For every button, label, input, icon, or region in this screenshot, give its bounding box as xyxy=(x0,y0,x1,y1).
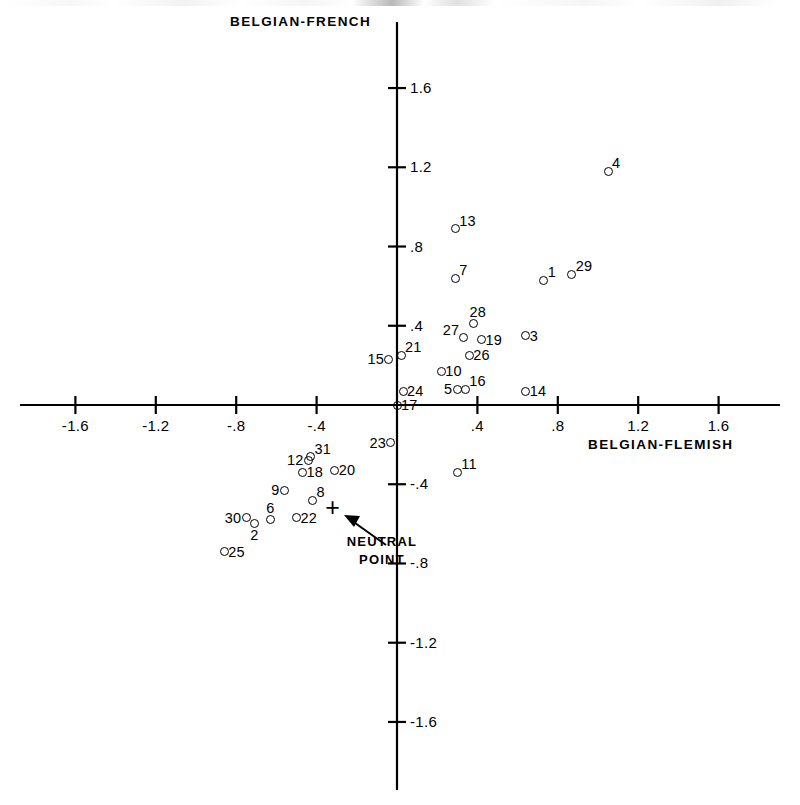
data-point-label: 30 xyxy=(225,511,242,526)
y-tick-label: -.4 xyxy=(410,475,428,492)
data-point-label: 15 xyxy=(367,352,384,367)
x-tick-label: 1.6 xyxy=(708,417,730,434)
neutral-point-label: NEUTRAL POINT xyxy=(347,533,418,568)
y-tick-label: 1.2 xyxy=(410,158,432,175)
data-point-label: 12 xyxy=(287,453,304,468)
x-tick-label: 1.2 xyxy=(627,417,649,434)
data-point-label: 5 xyxy=(444,382,452,397)
y-tick-label: .8 xyxy=(410,238,423,255)
x-tick-label: .8 xyxy=(551,417,564,434)
data-point-label: 6 xyxy=(266,501,274,516)
data-point-marker xyxy=(459,333,468,342)
data-point-label: 17 xyxy=(401,398,418,413)
data-point-label: 22 xyxy=(301,511,318,526)
x-tick-label: -1.6 xyxy=(62,417,89,434)
data-point-label: 7 xyxy=(459,263,467,278)
x-tick-label: .4 xyxy=(471,417,484,434)
data-point-label: 29 xyxy=(576,259,593,274)
data-point-label: 3 xyxy=(530,329,538,344)
y-tick-label: 1.6 xyxy=(410,79,432,96)
data-point-label: 16 xyxy=(469,374,486,389)
y-tick-label: -1.6 xyxy=(410,713,437,730)
data-point-label: 21 xyxy=(405,340,422,355)
data-point-label: 14 xyxy=(530,384,547,399)
data-point-label: 8 xyxy=(317,485,325,500)
y-tick-label: .4 xyxy=(410,317,423,334)
x-tick-label: -.8 xyxy=(227,417,245,434)
scatter-plot-figure: BELGIAN-FRENCH BELGIAN-FLEMISH -1.6-1.2-… xyxy=(0,0,800,805)
data-point-label: 28 xyxy=(469,305,486,320)
data-point-label: 1 xyxy=(548,265,556,280)
data-point-label: 19 xyxy=(485,333,502,348)
data-point-label: 20 xyxy=(339,463,356,478)
data-point-marker xyxy=(280,486,289,495)
data-point-label: 4 xyxy=(612,156,620,171)
neutral-point-marker: + xyxy=(325,495,340,520)
data-point-label: 10 xyxy=(445,364,462,379)
data-point-label: 13 xyxy=(459,214,476,229)
y-tick-label: -1.2 xyxy=(410,634,437,651)
data-point-label: 11 xyxy=(461,457,476,472)
data-point-label: 27 xyxy=(443,323,460,338)
x-axis-title: BELGIAN-FLEMISH xyxy=(588,437,734,452)
x-tick-label: -1.2 xyxy=(142,417,169,434)
data-point-label: 23 xyxy=(369,436,386,451)
x-tick-label: -.4 xyxy=(307,417,325,434)
y-axis-title: BELGIAN-FRENCH xyxy=(230,14,371,29)
data-point-label: 31 xyxy=(315,442,332,457)
data-point-label: 26 xyxy=(473,348,490,363)
data-point-label: 2 xyxy=(250,528,258,543)
data-point-label: 25 xyxy=(228,545,245,560)
data-point-label: 18 xyxy=(307,465,324,480)
data-point-label: 9 xyxy=(271,483,279,498)
